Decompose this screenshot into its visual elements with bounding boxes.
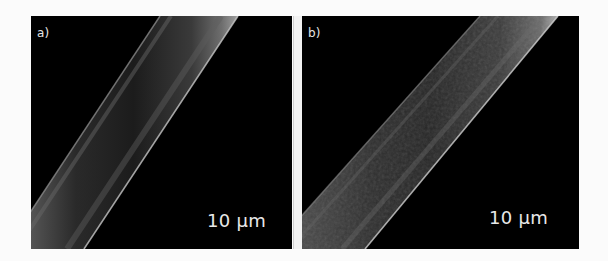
figure: a) 10 µm bbox=[0, 0, 608, 261]
scale-bar-label-a: 10 µm bbox=[207, 210, 266, 231]
panel-label-a: a) bbox=[37, 26, 49, 40]
micrograph-panel-b: b) 10 µm bbox=[302, 16, 579, 249]
panel-divider bbox=[293, 16, 302, 249]
micrograph-panel-a: a) 10 µm bbox=[31, 16, 292, 249]
panel-label-b: b) bbox=[308, 26, 321, 40]
scale-bar-label-b: 10 µm bbox=[489, 207, 548, 228]
